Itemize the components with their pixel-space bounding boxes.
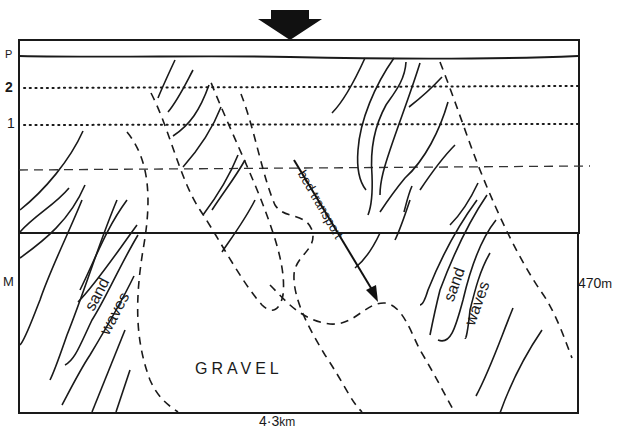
gravel-label: GRAVEL: [195, 361, 283, 377]
height-value: 470: [578, 275, 601, 291]
gravel-boundary: [127, 62, 572, 413]
sand-wave-crests-center: [158, 60, 255, 252]
label-line-1: 1: [7, 116, 15, 130]
width-dimension-label: 4·3km: [259, 414, 295, 428]
label-m: M: [3, 275, 14, 288]
sand-wave-crests-right: [332, 58, 542, 413]
label-p: P: [5, 49, 12, 60]
downward-arrow-icon: [258, 10, 322, 40]
label-line-2: 2: [5, 80, 13, 94]
width-unit: km: [279, 415, 295, 429]
height-dimension-label: 470m: [578, 276, 612, 290]
line-p: [19, 56, 578, 59]
height-unit: m: [601, 276, 612, 291]
sand-wave-crests-left: [20, 131, 138, 412]
width-value: 4·3: [259, 413, 279, 429]
survey-frame: [19, 40, 579, 233]
line-2: [24, 86, 578, 88]
seabed-diagram: [0, 0, 625, 431]
line-1: [24, 124, 578, 125]
